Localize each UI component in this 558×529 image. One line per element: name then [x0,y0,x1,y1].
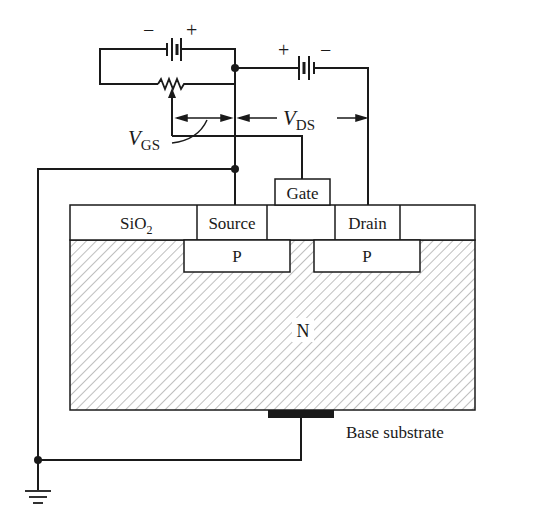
battery-ds-icon [299,56,314,80]
n-body-label: N [297,321,310,341]
junction-dot [231,64,239,72]
base-substrate-label: Base substrate [346,423,444,442]
p-left-label: P [232,247,241,266]
wiper-arrow-icon [168,88,176,98]
base-substrate-contact [268,410,334,418]
drain-label: Drain [348,214,387,233]
vds-label: VDS [283,106,315,133]
junction-dot [34,456,42,464]
source-label: Source [208,214,255,233]
gate-label: Gate [286,184,318,203]
battery-gs-plus: + [186,19,197,41]
battery-ds-minus: − [320,39,331,61]
junction-dot [231,165,239,173]
ground-icon [25,491,51,503]
battery-gs-icon [163,38,186,61]
voltage-arrows [172,115,366,143]
mosfet-diagram: − + + − VGS VDS Gate SiO2 Sour [0,0,558,529]
battery-gs-minus: − [143,19,154,41]
battery-ds-plus: + [278,39,289,61]
vgs-label: VGS [128,126,160,153]
potentiometer-icon [158,79,186,89]
p-right-label: P [362,247,371,266]
